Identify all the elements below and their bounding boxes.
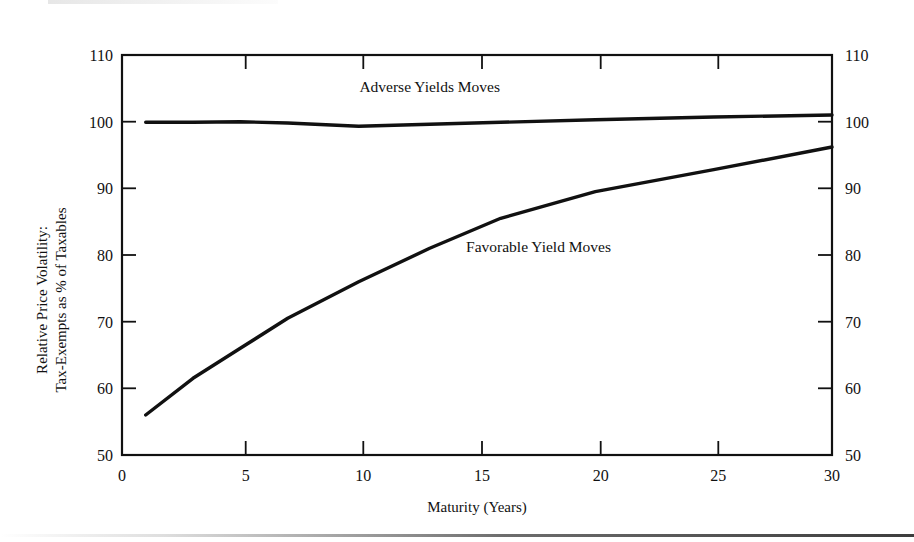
y-ticklabel-110: 110 <box>90 47 113 64</box>
x-ticklabel-5: 5 <box>242 467 250 484</box>
annotation-favorable-yield-moves: Favorable Yield Moves <box>466 238 611 255</box>
x-axis-ticklabels: 0 5 10 15 20 25 30 <box>118 467 840 484</box>
y-ticklabel-70: 70 <box>97 314 113 331</box>
y-ticklabel-right-110: 110 <box>845 47 868 64</box>
x-ticklabel-15: 15 <box>474 467 490 484</box>
x-ticklabel-25: 25 <box>710 467 726 484</box>
page-bottom-rule <box>0 534 914 537</box>
y-axis-title-line1: Relative Price Volatility: <box>34 226 50 374</box>
series-line-favorable-yield-moves <box>146 147 832 415</box>
y-ticklabel-50: 50 <box>97 447 113 464</box>
y-ticklabel-right-60: 60 <box>845 380 861 397</box>
y-ticklabel-80: 80 <box>97 247 113 264</box>
y-axis-right-ticklabels: 110 100 90 80 70 60 50 <box>845 47 869 464</box>
y-ticklabel-right-50: 50 <box>845 447 861 464</box>
x-axis-title: Maturity (Years) <box>427 499 527 516</box>
y-ticklabel-100: 100 <box>89 114 113 131</box>
x-ticklabel-0: 0 <box>118 467 126 484</box>
annotation-adverse-yields-moves: Adverse Yields Moves <box>359 78 500 95</box>
x-axis-top-ticks <box>246 55 719 69</box>
y-ticklabel-right-70: 70 <box>845 314 861 331</box>
y-ticklabel-60: 60 <box>97 380 113 397</box>
y-ticklabel-right-90: 90 <box>845 180 861 197</box>
y-axis-left-ticklabels: 110 100 90 80 70 60 50 <box>89 47 113 464</box>
line-chart: 110 100 90 80 70 60 50 110 100 90 80 70 … <box>0 0 914 542</box>
y-axis-left-ticks <box>122 55 136 455</box>
x-ticklabel-10: 10 <box>355 467 371 484</box>
y-ticklabel-right-100: 100 <box>845 114 869 131</box>
x-ticklabel-30: 30 <box>824 467 840 484</box>
figure-page: 110 100 90 80 70 60 50 110 100 90 80 70 … <box>0 0 914 542</box>
series-line-adverse-yields-moves <box>146 115 832 126</box>
x-ticklabel-20: 20 <box>593 467 609 484</box>
y-ticklabel-right-80: 80 <box>845 247 861 264</box>
plot-frame <box>122 55 832 455</box>
x-axis-bottom-ticks <box>246 441 719 455</box>
y-ticklabel-90: 90 <box>97 180 113 197</box>
y-axis-title-line2: Tax-Exempts as % of Taxables <box>53 207 69 392</box>
